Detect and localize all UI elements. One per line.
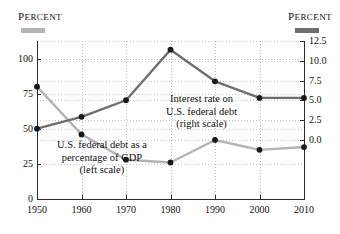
x-tick-label: 1950 (17, 204, 57, 215)
data-point-interest (79, 114, 85, 120)
data-point-interest (257, 95, 263, 101)
data-point-interest (123, 97, 129, 103)
data-point-debt (34, 84, 40, 90)
annotation-interest-line1: Interest rate on (166, 93, 237, 106)
annotation-federal-debt: U.S. federal debt as a percentage of GDP… (57, 139, 147, 177)
x-tick-label: 1980 (151, 204, 191, 215)
left-unit-rest: ERCENT (25, 12, 62, 22)
right-unit-rest: ERCENT (295, 12, 332, 22)
y-left-tick-label: 75 (7, 88, 33, 99)
x-tick-label: 1960 (62, 204, 102, 215)
data-point-debt (257, 147, 263, 153)
annotation-debt-line2: percentage of GDP (57, 152, 147, 165)
annotation-debt-line1: U.S. federal debt as a (57, 139, 147, 152)
legend-swatch-interest (295, 28, 319, 33)
y-right-tick-label: 7.5 (309, 75, 340, 86)
y-left-tick-label: 50 (7, 123, 33, 134)
y-right-tick-label: 2.5 (309, 114, 340, 125)
x-tick-label: 1970 (106, 204, 146, 215)
annotation-interest-rate: Interest rate on U.S. federal debt (righ… (166, 93, 237, 131)
x-tick-label: 2010 (284, 204, 324, 215)
data-point-debt (301, 144, 307, 150)
chart-figure: PERCENT PERCENT 100755025012.510.07.55.0… (0, 0, 340, 234)
y-left-tick-label: 0 (7, 193, 33, 204)
data-point-interest (168, 47, 174, 53)
y-left-tick-label: 100 (7, 53, 33, 64)
legend-swatch-debt (21, 28, 45, 33)
data-point-interest (34, 126, 40, 132)
annotation-interest-line3: (right scale) (166, 118, 237, 131)
annotation-interest-line2: U.S. federal debt (166, 106, 237, 119)
y-right-tick-label: 5.0 (309, 94, 340, 105)
x-tick-label: 2000 (240, 204, 280, 215)
data-point-debt (212, 137, 218, 143)
data-point-debt (168, 160, 174, 166)
right-axis-unit-label: PERCENT (288, 10, 332, 22)
y-right-tick-label: 10.0 (309, 55, 340, 66)
data-point-debt (79, 132, 85, 138)
left-axis-unit-label: PERCENT (18, 10, 62, 22)
data-point-interest (212, 78, 218, 84)
y-right-tick-label: 0.0 (309, 134, 340, 145)
y-right-tick-label: 12.5 (309, 35, 340, 46)
x-tick-label: 1990 (195, 204, 235, 215)
annotation-debt-line3: (left scale) (57, 164, 147, 177)
y-left-tick-label: 25 (7, 158, 33, 169)
data-point-interest (301, 95, 307, 101)
